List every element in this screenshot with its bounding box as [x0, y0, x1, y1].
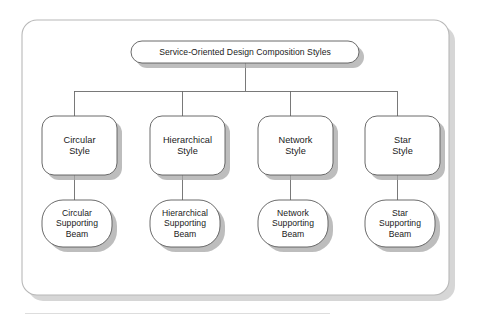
- style-node-network-shape[interactable]: [258, 116, 333, 175]
- beam-node-circular-shape[interactable]: [42, 200, 112, 247]
- style-node-hierarchical-shape[interactable]: [150, 116, 225, 175]
- beam-node-star-shape[interactable]: [365, 200, 435, 247]
- beam-node-hierarchical-shape[interactable]: [150, 200, 220, 247]
- beam-node-network-shape[interactable]: [258, 200, 328, 247]
- style-node-circular-shape[interactable]: [42, 116, 117, 175]
- style-node-star-shape[interactable]: [365, 116, 440, 175]
- root-node-shape[interactable]: [131, 41, 359, 63]
- diagram-canvas: Service-Oriented Design Composition Styl…: [0, 0, 482, 324]
- diagram-vector-layer: [0, 0, 482, 324]
